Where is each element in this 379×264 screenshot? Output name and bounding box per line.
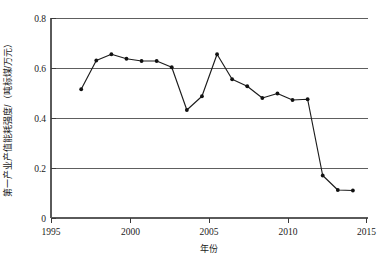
y-ticklabel-0.8: 0.8 bbox=[34, 14, 46, 24]
data-point-2013 bbox=[321, 174, 325, 178]
data-point-2002 bbox=[155, 59, 159, 63]
series-group bbox=[79, 52, 355, 192]
data-point-2003 bbox=[170, 65, 174, 69]
data-point-2007 bbox=[230, 77, 234, 81]
y-ticklabel-0.4: 0.4 bbox=[34, 114, 46, 124]
series-line-path bbox=[81, 54, 353, 190]
series-markers-group bbox=[79, 52, 355, 192]
x-tickmarks-group bbox=[51, 218, 367, 223]
y-ticklabel-0.6: 0.6 bbox=[34, 64, 46, 74]
line-chart-plot: 0.8 0.6 0.4 0.2 0 1995 2000 2005 2010 20… bbox=[0, 0, 379, 264]
data-point-2001 bbox=[140, 59, 144, 63]
x-ticklabels-group: 1995 2000 2005 2010 2015 bbox=[42, 227, 377, 237]
data-point-2008 bbox=[245, 84, 249, 88]
data-point-2015 bbox=[351, 189, 355, 193]
x-ticklabel-2010: 2010 bbox=[279, 227, 298, 237]
data-point-2006 bbox=[215, 52, 219, 56]
data-point-2004 bbox=[185, 108, 189, 112]
data-point-2000 bbox=[125, 57, 129, 61]
data-point-2010 bbox=[276, 92, 280, 96]
x-ticklabel-2005: 2005 bbox=[200, 227, 219, 237]
data-point-2014 bbox=[336, 188, 340, 192]
y-ticklabel-0.2: 0.2 bbox=[34, 164, 46, 174]
x-ticklabel-2000: 2000 bbox=[121, 227, 140, 237]
data-point-2011 bbox=[291, 98, 295, 102]
data-point-1999 bbox=[109, 52, 113, 56]
x-ticklabel-1995: 1995 bbox=[42, 227, 61, 237]
x-axis-title: 年份 bbox=[200, 243, 218, 254]
y-axis-title: 第一产业产值能耗强度/（吨标煤/万元） bbox=[2, 39, 13, 197]
data-point-1997 bbox=[79, 87, 83, 91]
y-tickmarks-group bbox=[51, 18, 56, 218]
x-ticklabel-2015: 2015 bbox=[357, 227, 376, 237]
chart-figure: 0.8 0.6 0.4 0.2 0 1995 2000 2005 2010 20… bbox=[0, 0, 379, 264]
data-point-2009 bbox=[260, 96, 264, 100]
y-ticklabels-group: 0.8 0.6 0.4 0.2 0 bbox=[34, 14, 46, 224]
y-ticklabel-0: 0 bbox=[41, 214, 46, 224]
data-point-2012 bbox=[306, 97, 310, 101]
data-point-2005 bbox=[200, 94, 204, 98]
gridlines-group bbox=[51, 18, 368, 218]
data-point-1998 bbox=[94, 59, 98, 63]
